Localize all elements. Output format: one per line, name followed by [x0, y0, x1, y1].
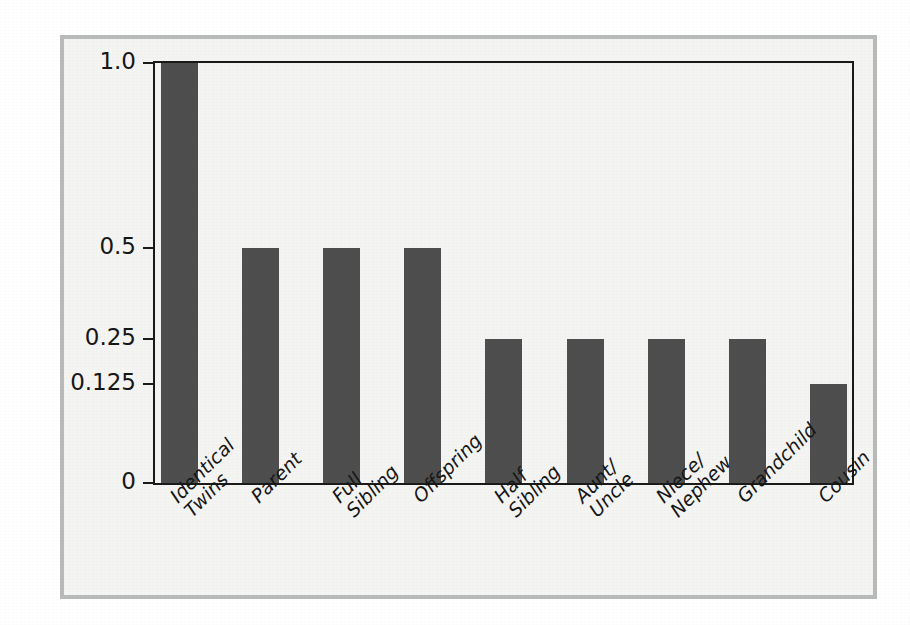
y-axis-tick-label: 0 [0, 470, 146, 493]
y-axis-tick-label: 0.125 [0, 371, 146, 394]
y-axis-tick-label: 0.25 [0, 326, 146, 349]
bar-parent [242, 248, 279, 483]
bar-offspring [404, 248, 441, 483]
y-axis-tick-label: 0.5 [0, 235, 146, 258]
bar-identical-twins [161, 63, 198, 483]
bar-half-sibling [485, 339, 522, 483]
plot-area [155, 63, 852, 483]
y-axis-tick-label: 1.0 [0, 50, 146, 73]
relatedness-bar-chart-figure: 1.00.50.250.1250 IdenticalTwinsParentFul… [0, 0, 910, 625]
bar-full-sibling [323, 248, 360, 483]
